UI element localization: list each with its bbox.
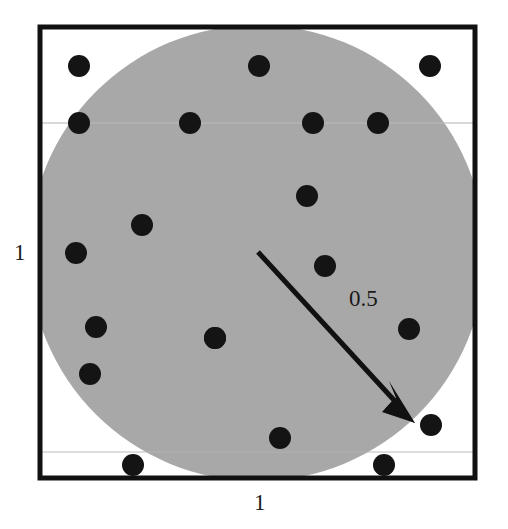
scan-line-upper xyxy=(40,122,475,124)
radius-length-label: 0.5 xyxy=(349,287,378,310)
sample-point xyxy=(398,318,420,340)
scan-line-lower xyxy=(40,451,475,453)
sample-point xyxy=(122,454,144,476)
side-length-label-left: 1 xyxy=(14,241,26,264)
sample-point xyxy=(131,214,153,236)
sample-point xyxy=(373,454,395,476)
sample-point xyxy=(314,255,336,277)
sample-point xyxy=(269,427,291,449)
sample-point xyxy=(68,55,90,77)
sample-point xyxy=(68,112,90,134)
sample-point xyxy=(296,185,318,207)
side-length-label-bottom: 1 xyxy=(254,491,266,514)
sample-point xyxy=(85,316,107,338)
sample-point xyxy=(302,112,324,134)
figure-container: 1 1 0.5 xyxy=(0,0,508,529)
sample-point xyxy=(248,55,270,77)
sample-point xyxy=(65,242,87,264)
diagram-canvas xyxy=(0,0,508,529)
sample-point xyxy=(367,112,389,134)
sample-point xyxy=(204,327,226,349)
sample-point xyxy=(179,112,201,134)
sample-point xyxy=(420,414,442,436)
sample-point xyxy=(79,363,101,385)
sample-point xyxy=(419,55,441,77)
